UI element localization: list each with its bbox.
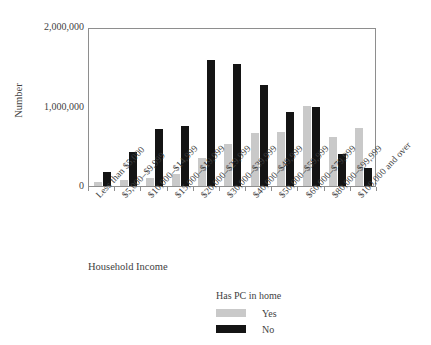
bar-no	[260, 85, 268, 186]
x-tick-mark	[245, 187, 246, 191]
legend-title: Has PC in home	[216, 290, 281, 301]
x-tick-mark	[167, 187, 168, 191]
legend-label: No	[262, 324, 274, 335]
x-axis-title: Household Income	[88, 261, 168, 272]
bar-group	[89, 29, 115, 186]
x-tick-mark	[140, 187, 141, 191]
legend-item: No	[216, 322, 281, 336]
x-tick-mark	[297, 187, 298, 191]
x-tick-mark	[114, 187, 115, 191]
x-tick-mark	[324, 187, 325, 191]
legend-item: Yes	[216, 306, 281, 320]
chart-legend: Has PC in home YesNo	[216, 290, 281, 338]
legend-swatch-no	[216, 325, 246, 333]
y-tick-label: 1,000,000	[24, 101, 84, 112]
x-tick-mark	[350, 187, 351, 191]
y-axis-tick-labels: 01,000,0002,000,000	[20, 0, 84, 345]
x-tick-mark	[271, 187, 272, 191]
legend-label: Yes	[262, 308, 277, 319]
y-tick-label: 0	[24, 180, 84, 191]
bar-chart-figure: Number 01,000,0002,000,000 Less than $5,…	[0, 0, 431, 345]
y-tick-label: 2,000,000	[24, 21, 84, 32]
x-tick-mark	[219, 187, 220, 191]
legend-swatch-yes	[216, 309, 246, 317]
x-tick-mark	[88, 187, 89, 191]
x-tick-mark	[376, 187, 377, 191]
x-tick-mark	[193, 187, 194, 191]
legend-rows: YesNo	[216, 306, 281, 336]
